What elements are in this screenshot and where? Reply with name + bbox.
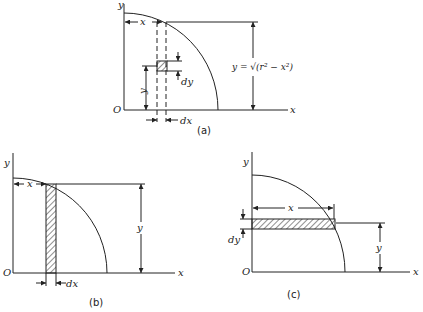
panel-b: y x O x y dx (b) [3,153,184,308]
quarter-circle-arc [13,178,107,273]
panel-c: y x O x dy y (c) [228,152,419,300]
origin-label: O [242,266,250,277]
caption-c: (c) [287,289,300,300]
differential-element [157,61,167,71]
x-axis-label: x [413,266,419,277]
y-axis-label: y [3,157,10,168]
quarter-circle-diagram: y x O x dy y dx y = √(r² − x²) (a) [0,0,423,312]
dy-label: dy [181,76,193,87]
dy-label: dy [228,234,240,245]
y-axis-label: y [117,0,124,10]
x-dim-label: x [27,178,33,189]
y-dim-label: y [375,242,382,253]
x-dim-label: x [288,202,294,213]
y-axis-label: y [242,156,249,167]
caption-b: (b) [89,297,103,308]
y-dim-label: y [136,222,143,233]
x-axis-label: x [178,267,184,278]
origin-label: O [113,104,121,115]
horizontal-strip-element [252,219,335,229]
dx-label: dx [180,115,192,126]
dx-label: dx [66,278,78,289]
origin-label: O [3,267,11,278]
panel-a: y x O x dy y dx y = √(r² − x²) (a) [113,0,296,136]
x-axis-label: x [290,104,296,115]
x-dim-label: x [140,16,146,27]
y-dim-label: y [137,88,148,95]
vertical-strip-element [46,184,56,273]
caption-a: (a) [197,125,211,136]
curve-equation: y = √(r² − x²) [231,62,293,72]
